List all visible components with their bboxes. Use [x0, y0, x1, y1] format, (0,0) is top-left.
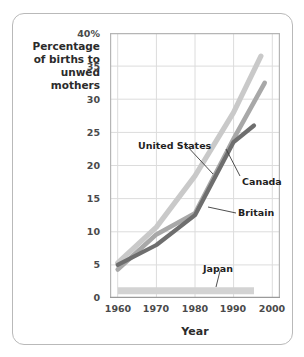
x-tick-1970: 1970 — [139, 303, 173, 314]
y-tick-10: 10 — [74, 226, 100, 237]
x-tick-1960: 1960 — [101, 303, 135, 314]
y-tick-5: 5 — [74, 259, 100, 270]
chart-figure: Percentage of births to unwed mothers 40… — [0, 0, 304, 357]
y-tick-0: 0 — [74, 292, 100, 303]
chart-svg — [110, 33, 280, 298]
annotation-united-states: United States — [138, 140, 211, 151]
y-tick-25: 25 — [74, 127, 100, 138]
y-tick-30: 30 — [74, 94, 100, 105]
annotation-britain: Britain — [238, 207, 274, 218]
y-tick-35: 35 — [74, 61, 100, 72]
y-tick-15: 15 — [74, 193, 100, 204]
annotation-japan: Japan — [203, 263, 233, 274]
plot-area — [110, 33, 280, 298]
y-tick-20: 20 — [74, 160, 100, 171]
x-tick-1990: 1990 — [216, 303, 250, 314]
y-tick-40: 40% — [74, 28, 100, 39]
annotation-canada: Canada — [242, 176, 282, 187]
x-axis-label: Year — [110, 325, 280, 338]
x-tick-2000: 2000 — [255, 303, 289, 314]
x-tick-1980: 1980 — [178, 303, 212, 314]
